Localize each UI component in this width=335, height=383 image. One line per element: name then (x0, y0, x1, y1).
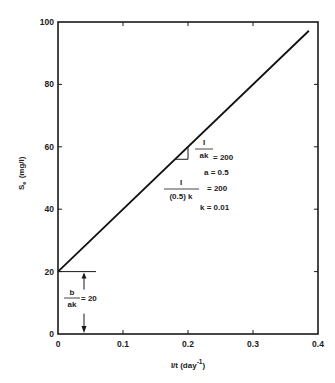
slope-numerator-1: I (203, 138, 205, 147)
intercept-value: = 20 (81, 294, 97, 303)
intercept-numerator: b (70, 288, 75, 297)
slope-numerator-2: I (180, 178, 182, 187)
x-tick-label: 0.2 (182, 339, 194, 349)
arrowhead-down-icon (82, 326, 87, 333)
arrowhead-up-icon (82, 273, 87, 279)
slope-a-value: a = 0.5 (204, 168, 229, 177)
slope-value-1: = 200 (213, 153, 234, 162)
slope-value-2: = 200 (207, 184, 228, 193)
slope-annotation: I ak = 200 a = 0.5 I (0.5) k = 200 k = 0… (164, 138, 234, 212)
y-tick-label: 80 (45, 79, 55, 89)
y-tick-label: 40 (45, 204, 55, 214)
x-tick-label: 0.4 (312, 339, 324, 349)
y-tick-label: 20 (45, 267, 55, 277)
intercept-annotation: b ak = 20 (58, 272, 97, 333)
x-tick-label: 0 (56, 339, 61, 349)
slope-k-value: k = 0.01 (200, 203, 230, 212)
x-tick-label: 0.1 (117, 339, 129, 349)
y-tick-label: 60 (45, 142, 55, 152)
slope-denominator-2: (0.5) k (169, 192, 193, 201)
chart-canvas: 00.10.20.30.4 020406080100 b ak = 20 I a… (0, 0, 335, 383)
slope-denominator-1: ak (200, 151, 209, 160)
y-axis-title: Se(mg/l) (17, 156, 27, 190)
y-tick-label: 0 (49, 329, 54, 339)
y-tick-label: 100 (40, 17, 54, 27)
x-tick-label: 0.3 (247, 339, 259, 349)
data-line (58, 31, 309, 272)
plot-area: 00.10.20.30.4 020406080100 b ak = 20 I a… (40, 17, 324, 349)
intercept-denominator: ak (68, 300, 77, 309)
plot-frame (58, 22, 318, 334)
x-axis-title: I/t (day-1) (171, 358, 206, 370)
